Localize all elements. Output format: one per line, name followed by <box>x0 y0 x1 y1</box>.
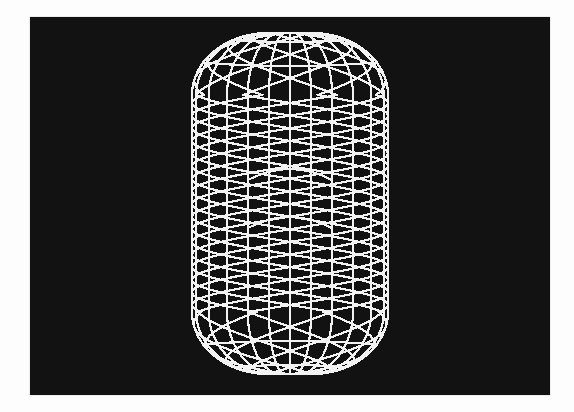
helix-lattice-lines <box>192 95 388 312</box>
capsule-wireframe <box>0 0 574 412</box>
image-canvas: Wireframe rendering of a 3D capsule (cyl… <box>0 0 574 412</box>
